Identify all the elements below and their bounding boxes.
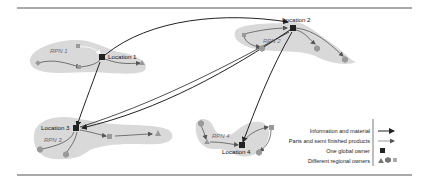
legend-parts: Parts and semi finished products (289, 138, 370, 144)
location-4-label: Location 4 (222, 148, 251, 155)
node-rpn1-c (77, 65, 81, 69)
location-1-label: Location 1 (108, 53, 137, 60)
location-3-label: Location 3 (41, 124, 70, 131)
rpn-2-label: RPN 2 (263, 38, 281, 44)
node-rpn1-b (76, 44, 80, 48)
rpn-1-label: RPN 1 (50, 48, 68, 54)
location-2-node[interactable] (290, 25, 296, 31)
hexagon-icon (385, 157, 391, 163)
legend: Information and material Parts and semi … (289, 119, 397, 166)
rpn-4-label: RPN 4 (212, 133, 230, 139)
triangle-icon (378, 158, 384, 163)
location-3-node[interactable] (73, 125, 79, 131)
location-2-label: Location 2 (282, 16, 311, 23)
legend-info-material: Information and material (310, 128, 370, 134)
location-1-node[interactable] (99, 54, 105, 60)
network-diagram: Location 1 RPN 1 Location 2 RPN 2 Locati… (0, 0, 424, 181)
legend-regional-owners: Different regional owners (308, 158, 370, 164)
legend-global-owner: One global owner (326, 148, 370, 154)
rpn-3-label: RPN 3 (44, 137, 62, 143)
square-icon (380, 148, 385, 153)
regional-square-icon (393, 158, 397, 162)
link-loc2-loc1 (108, 14, 210, 50)
